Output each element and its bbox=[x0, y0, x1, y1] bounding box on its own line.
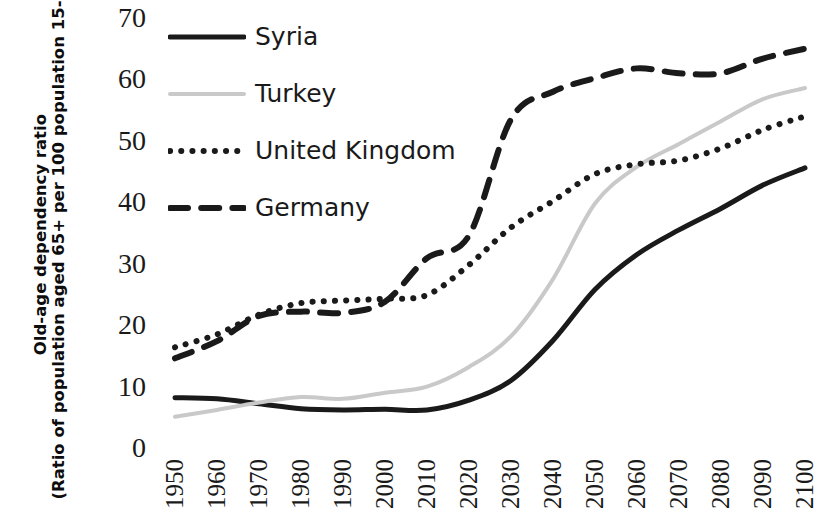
legend-item-germany[interactable]: Germany bbox=[168, 179, 498, 236]
legend-item-united-kingdom[interactable]: United Kingdom bbox=[168, 122, 498, 179]
legend-label: Germany bbox=[255, 195, 370, 220]
x-axis-tick-labels: 1950196019701980199020002010202020302040… bbox=[0, 455, 821, 524]
x-axis-label-1970: 1970 bbox=[246, 459, 271, 509]
legend-item-syria[interactable]: Syria bbox=[168, 8, 498, 65]
x-axis-label-2040: 2040 bbox=[540, 459, 565, 509]
x-axis-label-1950: 1950 bbox=[162, 459, 187, 509]
x-axis-label-1960: 1960 bbox=[204, 459, 229, 509]
legend-label: Syria bbox=[255, 24, 318, 49]
x-axis-label-2100: 2100 bbox=[792, 459, 817, 509]
chart-legend: SyriaTurkeyUnited KingdomGermany bbox=[168, 8, 498, 236]
legend-swatch-solid-icon bbox=[168, 84, 246, 104]
x-axis-label-2030: 2030 bbox=[498, 459, 523, 509]
x-axis-label-1990: 1990 bbox=[330, 459, 355, 509]
x-axis-label-2090: 2090 bbox=[750, 459, 775, 509]
chart-figure: Old-age dependency ratio (Ratio of popul… bbox=[0, 0, 821, 524]
legend-item-turkey[interactable]: Turkey bbox=[168, 65, 498, 122]
legend-swatch-solid-icon bbox=[168, 27, 246, 47]
x-axis-label-2050: 2050 bbox=[582, 459, 607, 509]
legend-label: United Kingdom bbox=[255, 138, 456, 163]
x-axis-label-2070: 2070 bbox=[666, 459, 691, 509]
legend-swatch-dashed-icon bbox=[168, 198, 246, 218]
x-axis-label-2010: 2010 bbox=[414, 459, 439, 509]
x-axis-label-1980: 1980 bbox=[288, 459, 313, 509]
x-axis-label-2020: 2020 bbox=[456, 459, 481, 509]
x-axis-label-2060: 2060 bbox=[624, 459, 649, 509]
x-axis-label-2000: 2000 bbox=[372, 459, 397, 509]
legend-swatch-dotted-icon bbox=[168, 141, 246, 161]
x-axis-label-2080: 2080 bbox=[708, 459, 733, 509]
legend-label: Turkey bbox=[255, 81, 336, 106]
